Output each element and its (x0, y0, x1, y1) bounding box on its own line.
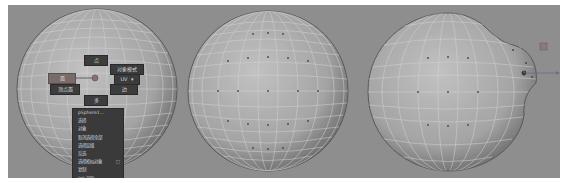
context-menu: pSphere1... 选择 对象 取消选择全部 选择层级 反选 选择相似对象 … (72, 108, 124, 178)
context-menu-item-select[interactable]: 选择 (73, 117, 123, 125)
context-menu-item-deselect-all[interactable]: 取消选择全部 (73, 134, 123, 142)
context-menu-item-invert-selection[interactable]: 反选 (73, 150, 123, 158)
marking-menu-center (92, 75, 98, 81)
sphere-object-3-deformed[interactable] (368, 12, 536, 172)
marking-menu-multi[interactable]: 多 (84, 95, 108, 106)
context-menu-title: pSphere1... (73, 109, 123, 117)
uv-label: UV (120, 76, 127, 82)
maya-viewport[interactable]: 点 对象模式 面 UV ▾ 顶点面 边 多 pSphere1... 选择 对象 … (8, 5, 560, 178)
marking-menu-vertex[interactable]: 点 (84, 55, 108, 66)
context-menu-item-select-hierarchy[interactable]: 选择层级 (73, 142, 123, 150)
option-box-icon[interactable]: □ (116, 158, 120, 166)
context-menu-item-duplicate[interactable]: 复制 (73, 166, 123, 174)
marking-menu-vertex-face[interactable]: 顶点面 (50, 84, 80, 95)
dg-traversal-label: DG 遍历 (78, 176, 94, 179)
context-menu-item-dg-traversal[interactable]: DG 遍历 ▸ (73, 175, 123, 179)
marking-menu-face[interactable]: 面 (48, 73, 76, 84)
select-similar-label: 选择相似对象 (78, 159, 102, 164)
uv-dropdown-icon: ▾ (131, 76, 134, 82)
submenu-arrow-icon: ▸ (118, 175, 120, 179)
context-menu-item-select-similar[interactable]: 选择相似对象 □ (73, 158, 123, 166)
marking-menu-edge[interactable]: 边 (110, 84, 138, 95)
context-menu-item-object[interactable]: 对象 (73, 125, 123, 133)
manipulator-plane-handle (540, 43, 547, 50)
sphere-object-2[interactable] (188, 11, 348, 171)
